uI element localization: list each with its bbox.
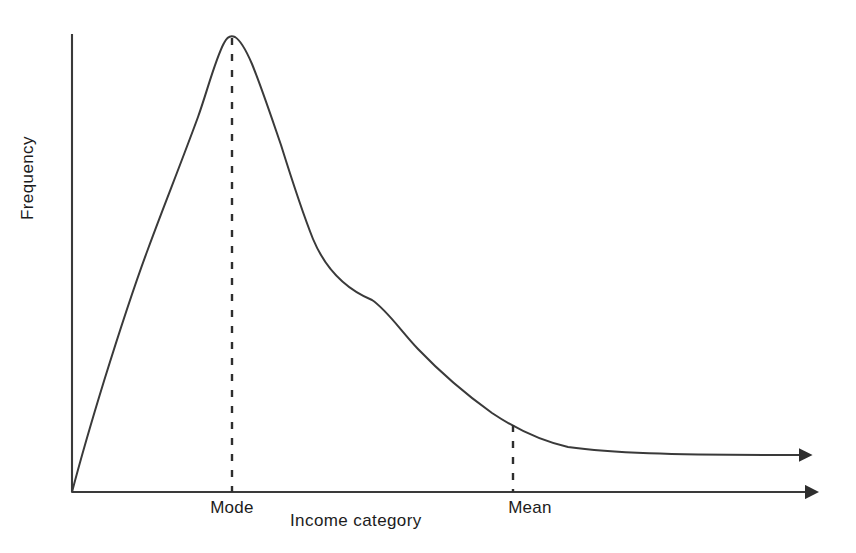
mode-marker-label: Mode (196, 498, 268, 518)
x-axis-label: Income category (290, 511, 422, 531)
skewed-distribution-figure: Frequency Income category Mode Mean (0, 0, 856, 553)
y-axis-label: Frequency (18, 136, 38, 220)
mean-marker-label: Mean (494, 498, 566, 518)
chart-canvas (0, 0, 856, 553)
distribution-curve (72, 36, 800, 492)
